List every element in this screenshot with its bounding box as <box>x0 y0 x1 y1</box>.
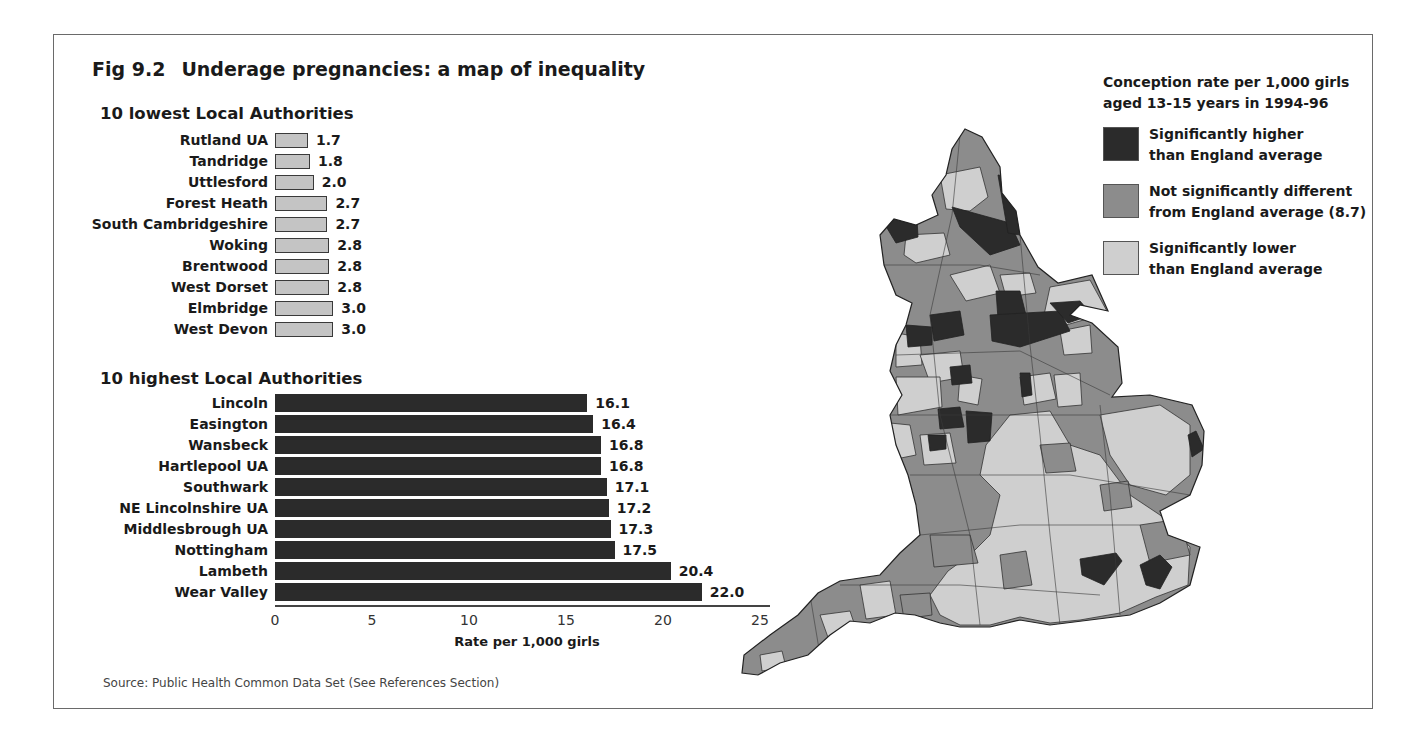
bar-row: Lambeth20.4 <box>0 561 800 582</box>
bar <box>275 583 702 601</box>
bar-label: Elmbridge <box>188 298 268 318</box>
lowest-section-title: 10 lowest Local Authorities <box>100 104 354 123</box>
bar <box>275 133 308 148</box>
bar-value: 3.0 <box>341 319 366 339</box>
figure-title-text: Underage pregnancies: a map of inequalit… <box>181 58 645 80</box>
bar-value: 16.1 <box>595 393 630 413</box>
bar-row: Easington16.4 <box>0 414 800 435</box>
bar <box>275 436 601 454</box>
bar <box>275 196 327 211</box>
bar-label: Rutland UA <box>180 130 268 150</box>
bar-value: 2.7 <box>335 193 360 213</box>
x-axis-label: Rate per 1,000 girls <box>454 634 599 649</box>
bar <box>275 322 333 337</box>
bar-label: Tandridge <box>190 151 268 171</box>
bar-label: Uttlesford <box>188 172 268 192</box>
bar <box>275 238 329 253</box>
bar-row: Wansbeck16.8 <box>0 435 800 456</box>
bar-label: Brentwood <box>182 256 268 276</box>
bar <box>275 499 609 517</box>
legend-title: Conception rate per 1,000 girls aged 13-… <box>1103 72 1349 114</box>
bar-row: Rutland UA1.7 <box>0 130 800 151</box>
bar-value: 17.3 <box>619 519 654 539</box>
bar-value: 2.0 <box>322 172 347 192</box>
bar-label: Wear Valley <box>175 582 268 602</box>
x-tick-label: 0 <box>271 612 280 628</box>
bar <box>275 217 327 232</box>
bar <box>275 415 593 433</box>
bar-label: Nottingham <box>174 540 268 560</box>
bar-value: 17.5 <box>623 540 658 560</box>
bar-row: Uttlesford2.0 <box>0 172 800 193</box>
bar-row: Wear Valley22.0 <box>0 582 800 603</box>
bar-row: Hartlepool UA16.8 <box>0 456 800 477</box>
bar <box>275 562 671 580</box>
bar-value: 16.8 <box>609 435 644 455</box>
bar-row: Lincoln16.1 <box>0 393 800 414</box>
bar-label: West Devon <box>174 319 268 339</box>
x-tick-label: 10 <box>460 612 478 628</box>
bar-value: 16.4 <box>601 414 636 434</box>
bar-label: Lincoln <box>212 393 268 413</box>
bar-value: 1.7 <box>316 130 341 150</box>
bar <box>275 541 615 559</box>
bar-value: 1.8 <box>318 151 343 171</box>
bar-label: Woking <box>209 235 268 255</box>
bar-row: Elmbridge3.0 <box>0 298 800 319</box>
bar <box>275 478 607 496</box>
bar-label: Middlesbrough UA <box>123 519 268 539</box>
bar-label: Forest Heath <box>166 193 268 213</box>
bar-label: Lambeth <box>199 561 268 581</box>
england-choropleth-map <box>720 115 1250 695</box>
bar-value: 2.8 <box>337 256 362 276</box>
legend-title-line2: aged 13-15 years in 1994-96 <box>1103 93 1349 114</box>
bar-label: West Dorset <box>171 277 268 297</box>
bar <box>275 457 601 475</box>
figure-title: Fig 9.2Underage pregnancies: a map of in… <box>92 58 645 80</box>
bar <box>275 301 333 316</box>
bar <box>275 154 310 169</box>
bar-value: 20.4 <box>679 561 714 581</box>
bar-row: Forest Heath2.7 <box>0 193 800 214</box>
bar-label: Southwark <box>183 477 268 497</box>
bar-value: 17.2 <box>617 498 652 518</box>
bar-value: 2.8 <box>337 235 362 255</box>
bar-label: NE Lincolnshire UA <box>119 498 268 518</box>
source-note: Source: Public Health Common Data Set (S… <box>103 676 499 690</box>
bar-value: 3.0 <box>341 298 366 318</box>
x-axis-line <box>275 605 770 607</box>
bar-label: Hartlepool UA <box>158 456 268 476</box>
x-tick-label: 5 <box>368 612 377 628</box>
bar-value: 2.7 <box>335 214 360 234</box>
x-tick-label: 15 <box>557 612 575 628</box>
highest-section-title: 10 highest Local Authorities <box>100 369 362 388</box>
bar <box>275 175 314 190</box>
bar-row: Brentwood2.8 <box>0 256 800 277</box>
bar-value: 17.1 <box>615 477 650 497</box>
figure-number: Fig 9.2 <box>92 58 165 80</box>
bar-row: Nottingham17.5 <box>0 540 800 561</box>
bar <box>275 280 329 295</box>
bar-row: Middlesbrough UA17.3 <box>0 519 800 540</box>
bar-label: South Cambridgeshire <box>92 214 268 234</box>
legend-title-line1: Conception rate per 1,000 girls <box>1103 72 1349 93</box>
bar-label: Easington <box>190 414 268 434</box>
bar-row: Southwark17.1 <box>0 477 800 498</box>
bar <box>275 259 329 274</box>
bar <box>275 394 587 412</box>
bar-row: West Devon3.0 <box>0 319 800 340</box>
bar-label: Wansbeck <box>188 435 268 455</box>
bar-row: Woking2.8 <box>0 235 800 256</box>
bar <box>275 520 611 538</box>
bar-row: West Dorset2.8 <box>0 277 800 298</box>
bar-value: 2.8 <box>337 277 362 297</box>
bar-row: NE Lincolnshire UA17.2 <box>0 498 800 519</box>
bar-row: Tandridge1.8 <box>0 151 800 172</box>
bar-row: South Cambridgeshire2.7 <box>0 214 800 235</box>
x-tick-label: 20 <box>654 612 672 628</box>
bar-value: 16.8 <box>609 456 644 476</box>
